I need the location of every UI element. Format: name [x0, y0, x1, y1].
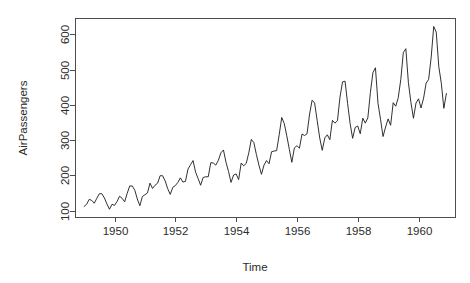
y-axis: 100200300400500600 [59, 25, 75, 221]
y-tick-label: 100 [59, 202, 71, 221]
x-tick-label: 1954 [224, 225, 250, 237]
air-passengers-line-chart: 100200300400500600 195019521954195619581… [0, 0, 470, 283]
x-tick-label: 1958 [346, 225, 372, 237]
x-axis-title: Time [242, 261, 267, 273]
x-tick-label: 1950 [103, 225, 129, 237]
chart-canvas: 100200300400500600 195019521954195619581… [0, 0, 470, 283]
y-tick-label: 400 [59, 96, 71, 115]
x-tick-label: 1952 [163, 225, 189, 237]
y-tick-label: 200 [59, 166, 71, 185]
y-tick-label: 600 [59, 25, 71, 44]
y-tick-label: 500 [59, 61, 71, 80]
plot-box [76, 19, 456, 218]
y-tick-label: 300 [59, 131, 71, 150]
x-axis: 195019521954195619581960 [103, 217, 433, 237]
plot-frame [76, 19, 456, 218]
y-axis-title: AirPassengers [17, 80, 29, 155]
x-tick-label: 1956 [285, 225, 311, 237]
x-tick-label: 1960 [407, 225, 433, 237]
series-line-airpassengers [84, 26, 446, 209]
